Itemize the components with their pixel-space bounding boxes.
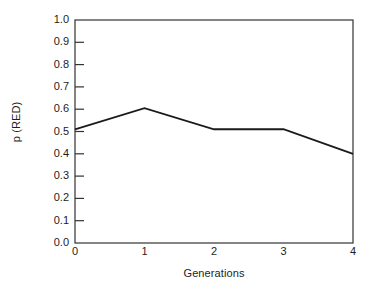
line-chart: p (RED) 1.00.90.80.70.60.50.40.30.20.10.… (0, 0, 379, 298)
x-tick-label: 0 (63, 246, 87, 257)
x-tick-label: 3 (272, 246, 296, 257)
x-axis-title: Generations (75, 267, 353, 279)
plot-area (0, 0, 379, 298)
x-tick-label: 4 (341, 246, 365, 257)
x-tick-label: 2 (202, 246, 226, 257)
x-tick-label: 1 (133, 246, 157, 257)
plot-frame (75, 20, 353, 243)
